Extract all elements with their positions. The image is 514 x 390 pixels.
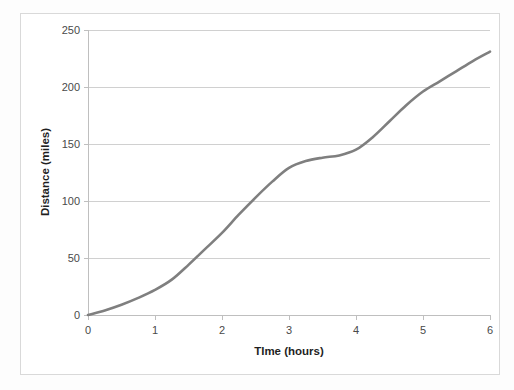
- plot-wrapper: 050100150200250 0123456 Distance (miles)…: [0, 0, 514, 390]
- y-tick-label: 200: [62, 81, 80, 93]
- x-tick-marks-group: [88, 315, 490, 320]
- line-chart-plot: 050100150200250 0123456 Distance (miles)…: [0, 0, 514, 390]
- x-tick-labels-group: 0123456: [85, 324, 493, 336]
- y-axis-title: Distance (miles): [39, 128, 51, 216]
- x-tick-label: 6: [487, 324, 493, 336]
- y-tick-label: 50: [68, 252, 80, 264]
- plot-background: [88, 30, 490, 315]
- x-tick-label: 5: [420, 324, 426, 336]
- y-tick-marks-group: [84, 30, 88, 315]
- x-tick-label: 4: [353, 324, 359, 336]
- x-tick-label: 2: [219, 324, 225, 336]
- x-tick-label: 1: [152, 324, 158, 336]
- y-tick-label: 150: [62, 138, 80, 150]
- chart-container: 050100150200250 0123456 Distance (miles)…: [0, 0, 514, 390]
- y-tick-label: 250: [62, 24, 80, 36]
- y-tick-labels-group: 050100150200250: [62, 24, 80, 321]
- x-axis-title: TIme (hours): [254, 345, 324, 357]
- y-tick-label: 0: [74, 309, 80, 321]
- x-tick-label: 0: [85, 324, 91, 336]
- x-tick-label: 3: [286, 324, 292, 336]
- y-tick-label: 100: [62, 195, 80, 207]
